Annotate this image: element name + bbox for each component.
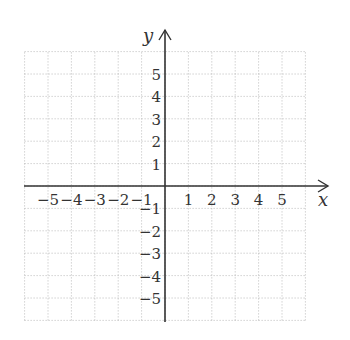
- tick-labels: −5−4−3−2−112345−5−4−3−2−112345: [37, 66, 287, 308]
- y-tick-label: 3: [151, 111, 161, 129]
- x-tick-label: −3: [84, 191, 106, 209]
- x-axis-label: x: [318, 189, 328, 210]
- y-tick-label: −4: [139, 268, 161, 286]
- coordinate-plane: x y −5−4−3−2−112345−5−4−3−2−112345: [0, 0, 350, 340]
- x-tick-label: 3: [230, 191, 240, 209]
- y-tick-label: −5: [139, 290, 161, 308]
- x-tick-label: 4: [254, 191, 264, 209]
- x-tick-label: −5: [37, 191, 59, 209]
- y-tick-label: 4: [151, 88, 161, 106]
- y-tick-label: −1: [139, 200, 161, 218]
- y-axis-label: y: [142, 25, 154, 46]
- y-tick-label: 1: [151, 156, 161, 174]
- y-tick-label: 5: [151, 66, 161, 84]
- x-tick-label: −4: [60, 191, 82, 209]
- y-tick-label: 2: [151, 133, 161, 151]
- x-tick-label: 2: [207, 191, 217, 209]
- x-tick-label: 1: [184, 191, 194, 209]
- y-tick-label: −2: [139, 223, 161, 241]
- x-tick-label: 5: [277, 191, 287, 209]
- y-tick-label: −3: [139, 245, 161, 263]
- x-tick-label: −2: [107, 191, 129, 209]
